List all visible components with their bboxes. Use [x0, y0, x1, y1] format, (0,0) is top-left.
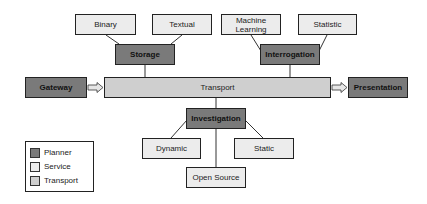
legend: Planner Service Transport [25, 141, 94, 192]
node-label: Open Source [192, 173, 239, 182]
node-gateway: Gateway [25, 77, 87, 98]
legend-item-service: Service [30, 161, 71, 172]
legend-item-transport: Transport [30, 175, 78, 186]
node-label: Gateway [40, 83, 73, 92]
service-swatch-icon [30, 162, 40, 172]
node-label: Transport [201, 83, 235, 92]
node-label: Statistic [313, 20, 341, 29]
gateway-arrow [88, 83, 103, 93]
node-interrogation: Interrogation [260, 44, 320, 65]
legend-label: Planner [44, 148, 72, 157]
node-label: Textual [169, 20, 194, 29]
transport-swatch-icon [30, 176, 40, 186]
node-presentation: Presentation [348, 77, 408, 98]
node-binary: Binary [75, 14, 136, 35]
node-label: Presentation [354, 83, 402, 92]
node-open-source: Open Source [186, 167, 246, 188]
node-transport: Transport [104, 77, 331, 98]
planner-swatch-icon [30, 148, 40, 158]
legend-label: Service [44, 162, 71, 171]
node-storage: Storage [115, 44, 175, 65]
legend-label: Transport [44, 176, 78, 185]
legend-item-planner: Planner [30, 147, 72, 158]
node-label: Investigation [191, 114, 240, 123]
node-label: Storage [130, 50, 160, 59]
node-investigation: Investigation [186, 108, 246, 129]
node-label: Interrogation [265, 50, 314, 59]
node-statistic: Statistic [298, 14, 357, 35]
node-dynamic: Dynamic [142, 138, 201, 159]
node-static: Static [234, 138, 294, 159]
node-machine-learning: Machine Learning [221, 14, 281, 35]
presentation-arrow [332, 83, 347, 93]
node-textual: Textual [152, 14, 212, 35]
node-label: Binary [94, 20, 117, 29]
node-label: Dynamic [156, 144, 187, 153]
node-label: Machine Learning [230, 16, 272, 34]
node-label: Static [254, 144, 274, 153]
